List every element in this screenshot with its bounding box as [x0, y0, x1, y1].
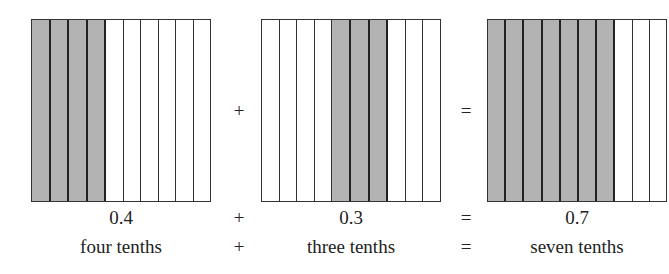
- grid-column: [406, 20, 424, 201]
- grid-column: [32, 20, 51, 201]
- value-label-1: 0.4: [31, 207, 211, 229]
- grid-three-tenths: [261, 19, 441, 202]
- grid-column: [124, 20, 142, 201]
- grid-column: [633, 20, 650, 201]
- grid-column: [297, 20, 315, 201]
- grid-column: [561, 20, 579, 201]
- grid-column: [370, 20, 389, 201]
- plus-sign-value: +: [229, 207, 249, 229]
- grid-column: [141, 20, 159, 201]
- grid-column: [106, 20, 124, 201]
- grid-column: [388, 20, 406, 201]
- grid-column: [423, 20, 440, 201]
- words-label-3: seven tenths: [487, 236, 667, 258]
- value-label-3: 0.7: [487, 207, 667, 229]
- grid-column: [88, 20, 107, 201]
- grid-column: [579, 20, 597, 201]
- value-label-2: 0.3: [261, 207, 441, 229]
- grid-column: [315, 20, 333, 201]
- grid-column: [615, 20, 632, 201]
- grid-column: [332, 20, 351, 201]
- words-label-1: four tenths: [31, 236, 211, 258]
- equals-sign-words: =: [456, 236, 476, 258]
- equals-sign-grid: =: [456, 100, 476, 122]
- grid-seven-tenths: [487, 19, 667, 202]
- grid-four-tenths: [31, 19, 211, 202]
- grid-column: [543, 20, 561, 201]
- grid-column: [506, 20, 524, 201]
- words-label-2: three tenths: [261, 236, 441, 258]
- grid-column: [69, 20, 88, 201]
- grid-column: [280, 20, 298, 201]
- grid-column: [51, 20, 70, 201]
- grid-column: [262, 20, 280, 201]
- grid-column: [488, 20, 506, 201]
- plus-sign-words: +: [229, 236, 249, 258]
- grid-column: [159, 20, 177, 201]
- plus-sign-grid: +: [229, 100, 249, 122]
- grid-column: [650, 20, 666, 201]
- grid-column: [176, 20, 194, 201]
- equals-sign-value: =: [456, 207, 476, 229]
- grid-column: [597, 20, 615, 201]
- grid-column: [194, 20, 211, 201]
- grid-column: [524, 20, 542, 201]
- grid-column: [351, 20, 370, 201]
